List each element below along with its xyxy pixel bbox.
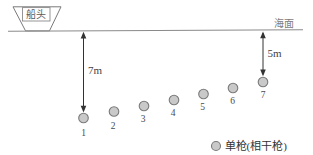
gun-marker-3 — [139, 101, 149, 111]
gun-marker-4 — [169, 95, 179, 105]
gun-marker-5 — [199, 89, 209, 99]
gun-number-4: 4 — [171, 108, 176, 118]
ship-bow-label: 船头 — [26, 8, 46, 20]
gun-number-2: 2 — [111, 121, 116, 131]
sea-surface-label: 海面 — [274, 17, 294, 29]
depth-arrow-5m-head-top — [260, 32, 266, 39]
depth-label-5m: 5m — [268, 47, 283, 59]
gun-number-1: 1 — [81, 128, 86, 138]
gun-marker-7 — [258, 77, 268, 87]
gun-number-7: 7 — [261, 90, 266, 100]
gun-marker-6 — [228, 83, 238, 93]
sea-surface-line — [8, 30, 303, 32]
depth-arrow-7m-head-bottom — [81, 106, 87, 113]
depth-label-7m: 7m — [88, 64, 103, 76]
diagram-canvas: 船头 海面 7m 5m 1 2 3 4 5 — [0, 0, 313, 155]
legend-gun-icon — [212, 142, 221, 151]
depth-arrow-5m: 5m — [260, 32, 282, 77]
gun-marker-2 — [109, 107, 119, 117]
gun-number-6: 6 — [230, 96, 235, 106]
gun-number-3: 3 — [141, 114, 146, 124]
legend-label: 单枪(相干枪) — [225, 139, 288, 153]
depth-arrow-5m-head-bottom — [260, 70, 266, 77]
gun-marker-1 — [79, 113, 89, 123]
gun-number-5: 5 — [200, 102, 205, 112]
seismic-diagram: 船头 海面 7m 5m 1 2 3 4 5 — [0, 0, 313, 155]
depth-arrow-7m: 7m — [81, 32, 103, 113]
legend: 单枪(相干枪) — [212, 139, 288, 153]
depth-arrow-7m-head-top — [81, 32, 87, 39]
gun-array: 1 2 3 4 5 6 7 — [79, 77, 268, 138]
